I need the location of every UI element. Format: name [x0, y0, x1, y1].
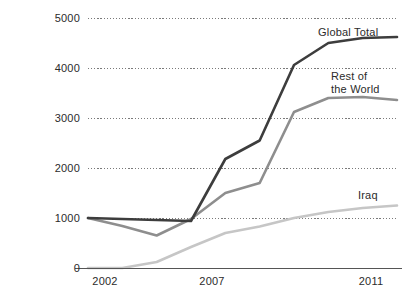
y-tick-label-0: 0 [28, 262, 80, 274]
y-tick-label-2000: 2000 [28, 162, 80, 174]
series-label-iraq: Iraq [358, 189, 378, 202]
line-chart: 5000 4000 3000 2000 1000 0 2002 2007 201… [0, 0, 405, 299]
series-line-global-total [88, 37, 397, 221]
chart-canvas [0, 0, 405, 299]
series-line-iraq [88, 206, 397, 269]
series-line-rest-of-the-world [88, 97, 397, 236]
series-label-global-total: Global Total [318, 26, 378, 39]
series-label-rest-of-world: Rest of the World [331, 70, 380, 96]
series-label-rest-of-world-line1: Rest of [331, 70, 367, 82]
y-tick-label-5000: 5000 [28, 12, 80, 24]
y-tick-label-3000: 3000 [28, 112, 80, 124]
y-tick-label-1000: 1000 [28, 212, 80, 224]
series-label-rest-of-world-line2: the World [331, 83, 380, 95]
x-tick-label-2002: 2002 [80, 275, 130, 287]
x-tick-label-2007: 2007 [187, 275, 237, 287]
x-tick-label-2011: 2011 [346, 275, 396, 287]
y-tick-label-4000: 4000 [28, 62, 80, 74]
